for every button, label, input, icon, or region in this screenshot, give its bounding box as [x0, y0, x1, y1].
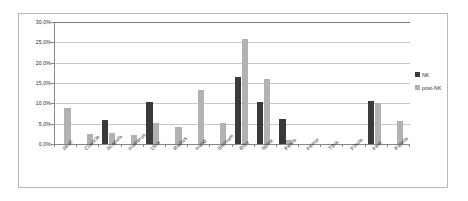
bar-group: [232, 22, 254, 144]
bar-group: [165, 22, 187, 144]
bar-group: [209, 22, 231, 144]
y-axis-tick-mark: [51, 22, 54, 23]
bar: [146, 102, 152, 144]
y-axis-tick-mark: [51, 103, 54, 104]
y-axis: 30,0%25,0%20,0%15,0%10,0%5,0%0,0%: [19, 22, 51, 144]
bar: [375, 103, 381, 144]
bar: [368, 101, 374, 145]
bar: [198, 90, 204, 144]
legend-item-label: post-NK: [422, 85, 441, 91]
y-axis-tick-label: 15,0%: [19, 80, 51, 86]
legend-item[interactable]: post-NK: [415, 84, 455, 91]
chart-plot-wrapper: 30,0%25,0%20,0%15,0%10,0%5,0%0,0% SkullC…: [19, 14, 449, 189]
bar: [235, 77, 241, 144]
y-axis-tick-label: 10,0%: [19, 100, 51, 106]
bar: [264, 79, 270, 144]
x-axis: SkullClavicleScapulaHumerusUlnaRadiusHan…: [54, 147, 409, 189]
bar-group: [76, 22, 98, 144]
y-axis-tick-mark: [51, 83, 54, 84]
y-axis-tick-mark: [51, 144, 54, 145]
bar-group: [320, 22, 342, 144]
bar: [257, 102, 263, 144]
legend-swatch-icon: [415, 72, 420, 77]
bar-group: [276, 22, 298, 144]
bar: [279, 119, 285, 144]
y-axis-tick-label: 0,0%: [19, 141, 51, 147]
y-axis-tick-label: 30,0%: [19, 19, 51, 25]
legend-swatch-icon: [415, 85, 420, 90]
bar-group: [365, 22, 387, 144]
y-axis-tick-mark: [51, 42, 54, 43]
y-axis-tick-mark: [51, 63, 54, 64]
bar: [102, 120, 108, 144]
y-axis-tick-mark: [51, 124, 54, 125]
bar-group: [98, 22, 120, 144]
legend-item[interactable]: NK: [415, 71, 455, 78]
y-axis-tick-label: 20,0%: [19, 60, 51, 66]
bar: [242, 39, 248, 144]
bar-group: [387, 22, 409, 144]
bar-group: [187, 22, 209, 144]
chart-legend: NKpost-NK: [415, 71, 455, 97]
bar-group: [54, 22, 76, 144]
bar-group: [121, 22, 143, 144]
bar-group: [342, 22, 364, 144]
bar-group: [143, 22, 165, 144]
chart-frame: 30,0%25,0%20,0%15,0%10,0%5,0%0,0% SkullC…: [18, 13, 448, 188]
x-axis-tick-mark: [409, 144, 410, 147]
bars-layer: [54, 22, 409, 144]
bar-group: [254, 22, 276, 144]
y-axis-tick-label: 5,0%: [19, 121, 51, 127]
bar-group: [298, 22, 320, 144]
y-axis-tick-label: 25,0%: [19, 39, 51, 45]
legend-item-label: NK: [422, 72, 429, 78]
